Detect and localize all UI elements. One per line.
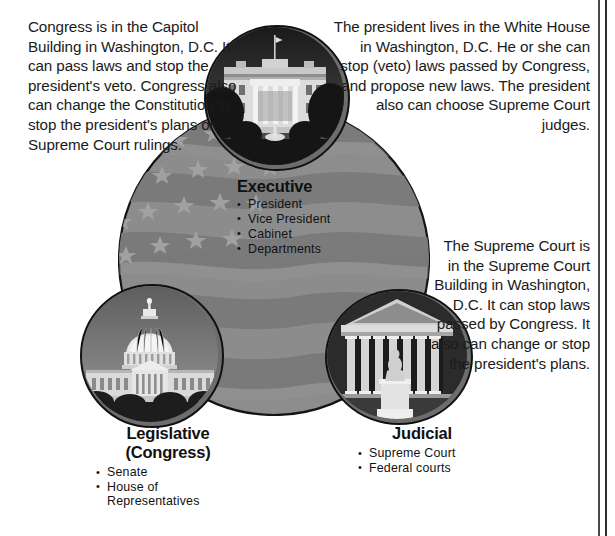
executive-description-text: The president lives in the White House i… — [330, 17, 590, 135]
legislative-subtitle: (Congress) — [93, 443, 243, 462]
list-item: Vice President — [237, 212, 330, 226]
photo-us-capitol — [80, 284, 224, 428]
branch-label-judicial: Judicial Supreme Court Federal courts — [356, 424, 488, 476]
executive-title: Executive — [237, 177, 330, 195]
list-item: Cabinet — [237, 227, 330, 241]
page-rule-inner — [598, 0, 600, 536]
page-rule-outer — [605, 0, 607, 536]
judicial-description-text: The Supreme Court is in the Supreme Cour… — [430, 236, 590, 373]
list-item: Departments — [237, 242, 330, 256]
list-item: House of Representatives — [96, 480, 243, 509]
legislative-title: Legislative — [93, 424, 243, 443]
list-item: Supreme Court — [358, 446, 488, 460]
government-branches-diagram: Congress is in the Capitol Building in W… — [0, 0, 615, 536]
list-item: President — [237, 197, 330, 211]
branch-label-executive: Executive President Vice President Cabin… — [237, 177, 330, 257]
judicial-member-list: Supreme Court Federal courts — [358, 446, 488, 475]
legislative-member-list: Senate House of Representatives — [96, 465, 243, 509]
list-item: Federal courts — [358, 461, 488, 475]
legislative-description-text: Congress is in the Capitol Building in W… — [28, 17, 240, 154]
list-item: Senate — [96, 465, 243, 479]
branch-label-legislative: Legislative (Congress) Senate House of R… — [93, 424, 243, 509]
executive-member-list: President Vice President Cabinet Departm… — [237, 197, 330, 256]
judicial-title: Judicial — [356, 424, 488, 443]
